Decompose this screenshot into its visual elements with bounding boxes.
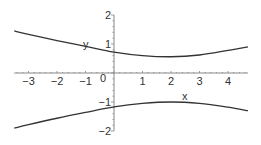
lower-curve <box>14 102 248 128</box>
x-tick-label: −2 <box>51 75 64 87</box>
x-axis-label: x <box>182 90 188 102</box>
x-tick-label: 1 <box>139 75 145 87</box>
y-tick-label: −2 <box>98 125 111 137</box>
y-tick-label: 1 <box>105 38 111 50</box>
x-tick-label: −1 <box>79 75 92 87</box>
x-tick-label: 0 <box>100 72 106 84</box>
upper-curve <box>14 31 248 57</box>
x-tick-label: 3 <box>196 75 202 87</box>
y-tick-label: 2 <box>105 9 111 21</box>
y-tick-label: −1 <box>98 96 111 108</box>
axes: −3−2−10123421−1−2 <box>14 9 248 137</box>
x-tick-label: −3 <box>22 75 35 87</box>
x-tick-label: 4 <box>225 75 231 87</box>
axis-labels: x y <box>83 38 188 102</box>
x-tick-label: 2 <box>168 75 174 87</box>
plot-area: −3−2−10123421−1−2 x y <box>0 0 261 145</box>
curves <box>14 31 248 128</box>
y-axis-label: y <box>83 38 89 50</box>
